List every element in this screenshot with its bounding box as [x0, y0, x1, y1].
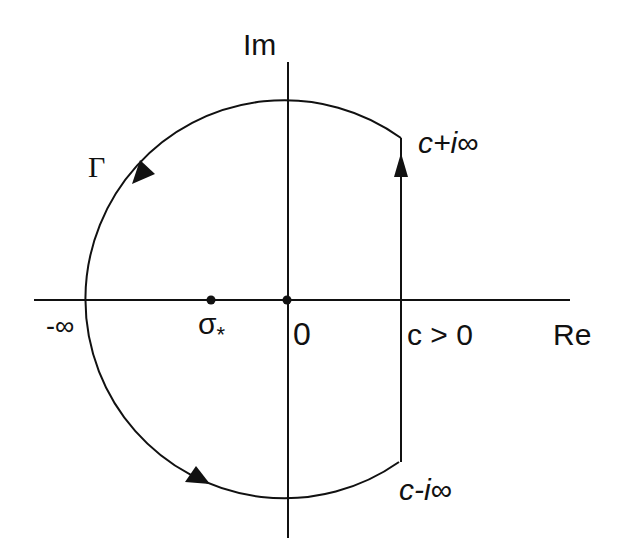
c-condition-label: c > 0 [407, 320, 473, 350]
c-minus-text: c- [399, 473, 424, 506]
sigma-star-point [207, 296, 216, 305]
arrow-up-icon [394, 153, 408, 177]
arrow-arc-upper-icon [132, 160, 155, 184]
c-minus-i-infinity-label: c-i∞ [399, 475, 452, 505]
infinity-text: ∞ [431, 473, 452, 506]
diagram-graphics [0, 0, 627, 556]
c-plus-text: c+ [418, 126, 451, 159]
c-condition-text: c > 0 [407, 318, 473, 351]
sigma-subscript: * [217, 322, 226, 347]
contour-gamma-label: Γ [88, 152, 105, 182]
arrow-arc-lower-icon [185, 466, 210, 484]
minus-infinity-label: -∞ [46, 313, 74, 340]
infinity-text: ∞ [457, 126, 478, 159]
c-plus-i-infinity-label: c+i∞ [418, 128, 479, 158]
origin-label: 0 [293, 318, 311, 350]
real-axis-label: Re [553, 320, 591, 350]
sigma-star-label: σ* [198, 309, 225, 339]
sigma-symbol: σ [198, 307, 217, 340]
contour-diagram: Im Re Γ -∞ σ* 0 c > 0 c+i∞ c-i∞ [0, 0, 627, 556]
imag-unit-text: i [424, 473, 431, 506]
imaginary-axis-label: Im [243, 30, 276, 60]
origin-point [283, 296, 292, 305]
